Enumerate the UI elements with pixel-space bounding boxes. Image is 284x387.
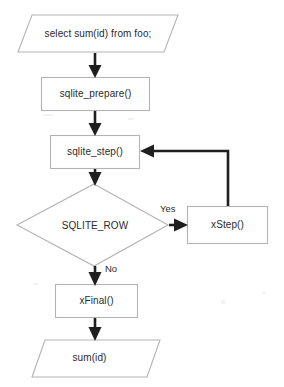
node-sqlite-step-shape	[51, 136, 140, 169]
edge-prepare-to-step-arrowhead	[89, 123, 102, 136]
node-sqlite-prepare-shape	[42, 78, 150, 111]
node-sqlite-row-shape	[17, 184, 168, 266]
edge-step-to-decision-arrowhead	[89, 172, 102, 186]
node-output-sum-shape	[32, 340, 160, 377]
flowchart-graphics	[0, 0, 284, 387]
node-xstep-shape	[188, 207, 268, 244]
edge-yes-to-xstep-arrowhead	[174, 219, 188, 232]
edge-input-to-prepare-arrowhead	[89, 65, 102, 78]
node-xfinal-shape	[56, 285, 138, 318]
flowchart-canvas: select sum(id) from foo; sqlite_prepare(…	[0, 0, 284, 387]
edge-xstep-feedback-line	[150, 151, 228, 206]
node-input-query-shape	[18, 15, 178, 52]
edge-no-to-xfinal-arrowhead	[89, 272, 102, 286]
edge-xstep-feedback-arrowhead	[140, 145, 154, 158]
edge-xfinal-to-output-arrowhead	[89, 327, 102, 341]
